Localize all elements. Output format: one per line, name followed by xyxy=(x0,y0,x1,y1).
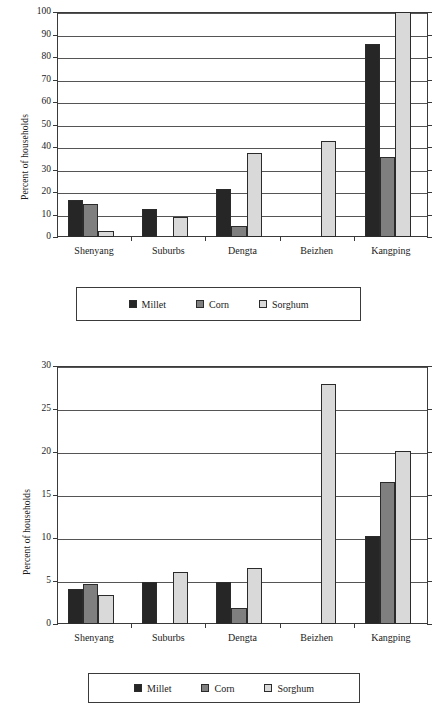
y-axis-tick-label: 10 xyxy=(0,210,51,220)
y-axis-tick-mark-right xyxy=(427,35,432,36)
y-axis-tick-mark-right xyxy=(427,57,432,58)
y-axis-tick-mark xyxy=(53,192,58,193)
bar-dengta-millet xyxy=(216,189,231,237)
x-axis-tick-label-suburbs: Suburbs xyxy=(152,632,185,643)
y-axis-tick-label: 40 xyxy=(0,142,51,152)
y-axis-tick-mark xyxy=(53,495,58,496)
legend-swatch-icon xyxy=(134,684,142,692)
y-axis-tick-label: 50 xyxy=(0,120,51,130)
legend-label: Millet xyxy=(147,683,171,694)
gridline xyxy=(58,13,427,14)
bar-beizhen-sorghum xyxy=(321,141,336,237)
y-axis-tick-label: 70 xyxy=(0,75,51,85)
y-axis-tick-label: 100 xyxy=(0,7,51,17)
legend-item-millet[interactable]: Millet xyxy=(134,683,171,694)
y-axis-tick-label: 20 xyxy=(0,187,51,197)
x-axis-tick-label-beizhen: Beizhen xyxy=(300,632,333,643)
bar-kangping-corn xyxy=(380,482,395,624)
bar-kangping-corn xyxy=(380,157,395,237)
y-axis-tick-mark-right xyxy=(427,409,432,410)
x-axis-tick-label-shenyang: Shenyang xyxy=(74,632,113,643)
y-axis-tick-mark xyxy=(53,452,58,453)
y-axis-tick-mark xyxy=(53,102,58,103)
bar-dengta-sorghum xyxy=(247,153,262,237)
y-axis-tick-mark-right xyxy=(427,538,432,539)
bar-shenyang-corn xyxy=(83,204,98,237)
legend-item-sorghum[interactable]: Sorghum xyxy=(259,299,309,310)
x-axis-tick-mark xyxy=(205,236,206,241)
bar-shenyang-millet xyxy=(68,589,83,624)
y-axis-tick-mark xyxy=(53,538,58,539)
y-axis-tick-label: 60 xyxy=(0,97,51,107)
y-axis-tick-mark-right xyxy=(427,80,432,81)
legend-swatch-icon xyxy=(196,300,204,308)
bar-dengta-corn xyxy=(231,608,246,624)
x-axis-tick-mark xyxy=(354,236,355,241)
y-axis-tick-mark xyxy=(53,35,58,36)
legend-item-corn[interactable]: Corn xyxy=(196,299,229,310)
x-axis-tick-mark xyxy=(205,623,206,628)
x-axis-tick-label-shenyang: Shenyang xyxy=(74,245,113,256)
chart-legend: MilletCornSorghum xyxy=(88,673,360,703)
legend-label: Sorghum xyxy=(277,683,314,694)
y-axis-tick-mark xyxy=(53,12,58,13)
x-axis-tick-label-dengta: Dengta xyxy=(228,632,257,643)
legend-swatch-icon xyxy=(259,300,267,308)
x-axis-tick-label-beizhen: Beizhen xyxy=(300,245,333,256)
bar-kangping-millet xyxy=(365,44,380,237)
y-axis-tick-mark-right xyxy=(427,624,432,625)
bar-suburbs-millet xyxy=(142,582,157,624)
y-axis-tick-mark-right xyxy=(427,147,432,148)
legend-swatch-icon xyxy=(201,684,209,692)
bar-suburbs-millet xyxy=(142,209,157,237)
y-axis-tick-mark xyxy=(53,624,58,625)
bar-chart-figure-1: Percent of households 010203040506070809… xyxy=(0,0,436,340)
y-axis-tick-mark-right xyxy=(427,192,432,193)
bar-beizhen-sorghum xyxy=(321,384,336,624)
y-axis-title: Percent of households xyxy=(22,489,32,575)
legend-item-corn[interactable]: Corn xyxy=(201,683,234,694)
gridline xyxy=(58,453,427,454)
bar-chart-figure-2: Percent of households 051015202530 Sheny… xyxy=(0,350,436,710)
y-axis-tick-label: 30 xyxy=(0,361,51,371)
y-axis-tick-mark xyxy=(53,237,58,238)
y-axis-tick-mark xyxy=(53,125,58,126)
x-axis-tick-label-kangping: Kangping xyxy=(371,632,410,643)
y-axis-tick-mark-right xyxy=(427,581,432,582)
y-axis-tick-mark-right xyxy=(427,215,432,216)
x-axis-tick-mark xyxy=(131,623,132,628)
x-axis-tick-mark xyxy=(354,623,355,628)
bar-kangping-sorghum xyxy=(395,451,410,624)
y-axis-tick-label: 90 xyxy=(0,30,51,40)
bar-kangping-millet xyxy=(365,536,380,624)
y-axis-tick-mark xyxy=(53,366,58,367)
y-axis-tick-mark-right xyxy=(427,366,432,367)
bar-dengta-sorghum xyxy=(247,568,262,624)
legend-label: Millet xyxy=(142,299,166,310)
y-axis-tick-mark xyxy=(53,147,58,148)
y-axis-tick-label: 80 xyxy=(0,52,51,62)
y-axis-tick-label: 10 xyxy=(0,533,51,543)
y-axis-tick-label: 15 xyxy=(0,490,51,500)
chart-legend: MilletCornSorghum xyxy=(76,287,361,321)
y-axis-tick-mark-right xyxy=(427,102,432,103)
y-axis-tick-label: 30 xyxy=(0,165,51,175)
legend-swatch-icon xyxy=(264,684,272,692)
x-axis-tick-mark xyxy=(280,623,281,628)
legend-item-sorghum[interactable]: Sorghum xyxy=(264,683,314,694)
y-axis-tick-label: 0 xyxy=(0,619,51,629)
y-axis-tick-label: 25 xyxy=(0,404,51,414)
y-axis-tick-mark-right xyxy=(427,495,432,496)
y-axis-tick-mark-right xyxy=(427,452,432,453)
bar-shenyang-sorghum xyxy=(98,595,113,624)
bar-shenyang-sorghum xyxy=(98,231,113,237)
bar-dengta-corn xyxy=(231,226,246,237)
y-axis-tick-mark xyxy=(53,170,58,171)
y-axis-tick-mark-right xyxy=(427,125,432,126)
legend-label: Sorghum xyxy=(272,299,309,310)
bar-suburbs-sorghum xyxy=(173,572,188,624)
x-axis-tick-mark xyxy=(280,236,281,241)
legend-item-millet[interactable]: Millet xyxy=(129,299,166,310)
bar-dengta-millet xyxy=(216,582,231,624)
y-axis-tick-mark xyxy=(53,409,58,410)
